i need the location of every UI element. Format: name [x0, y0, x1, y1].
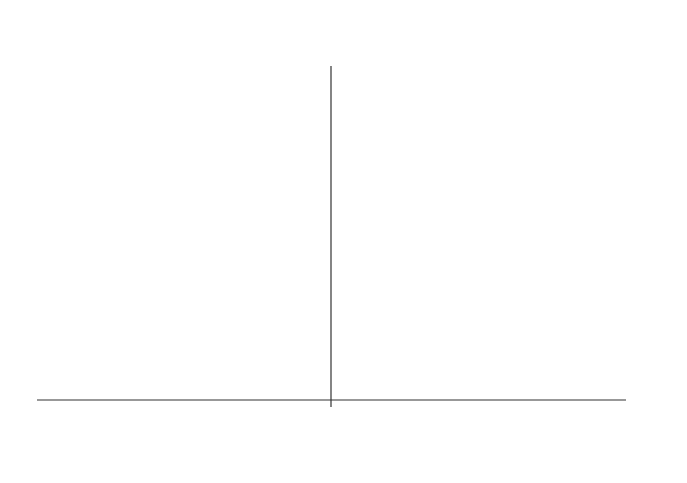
normal-distribution-chart	[0, 0, 687, 483]
